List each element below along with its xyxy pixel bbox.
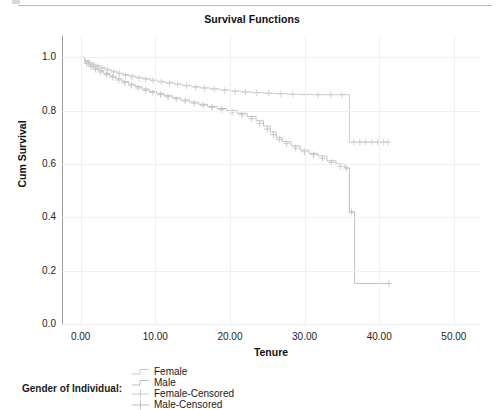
step-line-icon bbox=[131, 366, 150, 377]
step-line-icon bbox=[131, 377, 150, 388]
x-tick-label: 10.00 bbox=[125, 331, 185, 342]
y-tick-label: 0.0 bbox=[14, 319, 56, 329]
x-tick-label: 30.00 bbox=[275, 331, 335, 342]
x-tick-label: 40.00 bbox=[349, 331, 409, 342]
legend-entry-male-censored[interactable]: Male-Censored bbox=[131, 399, 234, 410]
x-tick-label: 20.00 bbox=[200, 331, 260, 342]
chart-legend: Gender of Individual: FemaleMaleFemale-C… bbox=[0, 366, 504, 410]
y-tick-label: 0.2 bbox=[14, 266, 56, 276]
legend-title: Gender of Individual: bbox=[22, 383, 122, 394]
legend-entries: FemaleMaleFemale-CensoredMale-Censored bbox=[131, 366, 248, 410]
y-tick-label: 1.0 bbox=[14, 52, 56, 62]
legend-entry-male[interactable]: Male bbox=[131, 377, 234, 388]
plus-cross-icon bbox=[131, 388, 150, 399]
plus-cross-icon bbox=[131, 399, 150, 410]
x-tick-label: 0.00 bbox=[51, 331, 111, 342]
legend-entry-female-censored[interactable]: Female-Censored bbox=[131, 388, 234, 399]
legend-label: Female-Censored bbox=[154, 388, 234, 399]
y-axis-title: Cum Survival bbox=[16, 84, 28, 224]
x-tick-label: 50.00 bbox=[424, 331, 484, 342]
legend-label: Female bbox=[154, 366, 187, 377]
legend-label: Male bbox=[154, 377, 176, 388]
legend-entry-female[interactable]: Female bbox=[131, 366, 234, 377]
legend-label: Male-Censored bbox=[154, 399, 222, 410]
x-axis-title: Tenure bbox=[62, 346, 480, 358]
